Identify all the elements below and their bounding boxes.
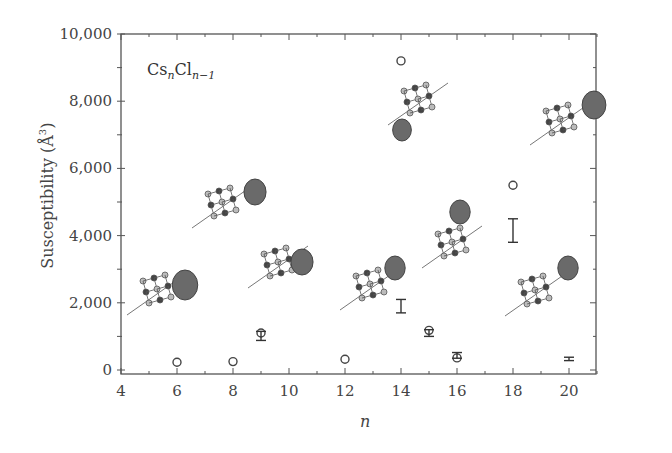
density-lobe [291,249,313,275]
cluster-inset [127,270,198,315]
atom [546,295,552,301]
cluster-inset [422,200,482,268]
y-tick-label: 0 [102,361,112,379]
plot-frame [121,34,596,374]
cluster-inset [505,256,578,316]
density-lobe [393,119,412,141]
cluster-formula-label: CsnCln−1 [147,60,215,82]
x-tick-label: 10 [279,382,298,400]
x-tick-label: 20 [559,382,578,400]
cluster-insets [127,82,606,316]
cluster-inset [192,179,266,228]
y-tick-label: 4,000 [69,227,112,245]
data-point-circle [229,358,237,366]
atom [233,207,239,213]
density-lobe [172,270,198,300]
density-lobe [558,256,578,280]
error-bar [564,357,574,360]
x-tick-label: 18 [503,382,522,400]
density-lobe [450,200,470,224]
data-point-circle [341,355,349,363]
atom [571,124,577,130]
x-axis-label: n [360,412,370,431]
data-point-circle [173,358,181,366]
error-bar [396,299,406,312]
y-tick-label: 2,000 [69,294,112,312]
plot-border [121,34,596,374]
density-lobe [582,91,606,119]
x-tick-label: 16 [447,382,466,400]
chart-svg: 46810121416182002,0004,0006,0008,00010,0… [0,0,672,453]
x-tick-label: 12 [335,382,354,400]
atom [168,294,174,300]
x-tick-label: 8 [228,382,238,400]
axis-ticks: 46810121416182002,0004,0006,0008,00010,0… [60,25,598,400]
x-tick-label: 4 [116,382,126,400]
error-bar [508,219,518,243]
atom [463,247,469,253]
density-lobe [244,179,266,205]
density-lobe [385,256,405,280]
cluster-inset [388,82,448,141]
y-tick-label: 8,000 [69,92,112,110]
atom [381,289,387,295]
cluster-inset [248,245,313,288]
x-tick-label: 14 [391,382,410,400]
data-point-circle [509,181,517,189]
atom [429,104,435,110]
y-tick-label: 6,000 [69,159,112,177]
data-point-circle [397,57,405,65]
cluster-inset [340,256,405,310]
x-tick-label: 6 [172,382,182,400]
y-tick-label: 10,000 [60,25,113,43]
y-axis-label: Susceptibility (Å3) [37,101,56,291]
cluster-inset [530,91,606,145]
